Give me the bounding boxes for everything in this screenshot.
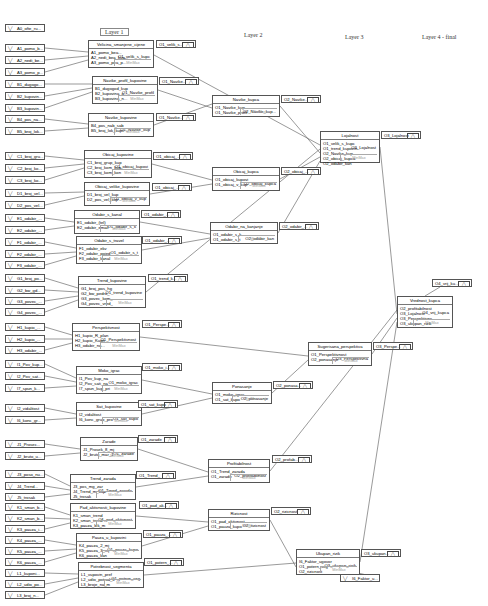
output-variable[interactable]: O1_pauza_...╱╲ [143, 530, 183, 538]
output-variable[interactable]: O1_pad_ak...╱╲ [139, 501, 179, 509]
input-variable[interactable]: ╲╱K2_sman_b... [5, 514, 45, 522]
input-variable[interactable]: ╲╱I6_konc_gr... [5, 416, 45, 424]
input-variable[interactable]: ╲╱B4_pos_na... [5, 115, 45, 123]
output-variable[interactable]: O2_Navike...╱╲ [281, 95, 321, 103]
input-variable[interactable]: ╲╱A0_ofte_ru... [5, 24, 45, 32]
rule-block[interactable]: Pad_aktivnosti_kupovineK1_sman_trendK2_s… [70, 503, 136, 529]
rule-block[interactable]: Navike_profil_kupovineB1_dugogod_kupB2_k… [92, 76, 158, 104]
input-variable[interactable]: ╲╱L1_kuponi... [5, 569, 45, 577]
input-variable[interactable]: ╲╱C1_broj_gru... [5, 152, 45, 160]
input-variable[interactable]: ╲╱G2_bw_gd... [5, 286, 45, 294]
output-variable[interactable]: O1_trend_k...╱╲ [148, 274, 188, 282]
input-variable[interactable]: ╲╱I6_Faktor_u... [340, 574, 380, 582]
output-variable[interactable]: O1_velik_s...╱╲ [156, 40, 196, 48]
rule-block[interactable]: Sat_kupovineI2_vidalitostI6_konc_grup_pr… [76, 402, 142, 426]
input-variable[interactable]: ╲╱K5_pauza_... [5, 547, 45, 555]
input-variable[interactable]: ╲╱G4_povec_... [5, 308, 45, 316]
input-variable[interactable]: ╲╱I2_Pov_sat... [5, 372, 45, 380]
rule-block[interactable]: LojalnostO1_velik_s_kupcO1_trend_kupovin… [320, 131, 380, 163]
input-variable[interactable]: ╲╱D2_pos_vel... [5, 201, 45, 209]
rule-block[interactable]: ProfitabilnostO1_Trend_zaradaO1_zaradeO2… [208, 459, 270, 483]
input-variable[interactable]: ╲╱F2_odabir_... [5, 250, 45, 258]
output-variable[interactable]: O3_Perspe...╱╲ [373, 342, 413, 350]
input-variable[interactable]: ╲╱F1_odabir_... [5, 238, 45, 246]
input-variable[interactable]: ╲╱F3_odabir_... [5, 261, 45, 269]
output-variable[interactable]: O3_Lojalnost╱╲ [381, 131, 421, 139]
output-variable[interactable]: O4_vrij_ku...╱╲ [432, 279, 472, 287]
rule-block[interactable]: Obicaj_velike_kupovineD1_broj_vel_kupD2_… [84, 182, 150, 206]
input-variable[interactable]: ╲╱B2_kupovin... [5, 92, 45, 100]
rule-block[interactable]: Odabir_s_travelF1_odabir_ekvF2_odabir_po… [76, 236, 142, 264]
input-variable[interactable]: ╲╱J4_Trend... [5, 482, 45, 490]
rule-block[interactable]: Sugerisana_perspektivaO1_PerspektivnostO… [308, 342, 372, 366]
rule-block[interactable]: ZaradeJ1_Prosek_8_mjJ2_bruto_mar_1O1_zar… [80, 437, 138, 461]
output-variable[interactable]: O2_obicaj_...╱╲ [281, 167, 321, 175]
rule-block[interactable]: PonasanjeO1_moko_igracO1_sat_kupoO2_pona… [212, 382, 272, 404]
rule-block[interactable]: PerspektivnostH1_kupio_R_planH2_kupio_Ku… [72, 323, 140, 351]
input-variable[interactable]: ╲╱J5_trosak [5, 493, 45, 501]
output-variable[interactable]: O1_zarade╱╲ [138, 435, 178, 443]
input-variable[interactable]: ╲╱G1_broj_po... [5, 274, 45, 282]
output-variable[interactable]: O1_odabir_...╱╲ [141, 210, 181, 218]
output-variable[interactable]: O1_obicaj_...╱╲ [152, 183, 192, 191]
input-variable[interactable]: ╲╱L3_broj_n... [5, 591, 45, 599]
input-variable[interactable]: ╲╱H3_odabir_... [5, 346, 45, 354]
rule-block[interactable]: Navike_kupovineB4_pos_nab_sabB5_broj_lok… [88, 113, 154, 137]
input-variable[interactable]: ╲╱H2_kupio_... [5, 335, 45, 343]
output-variable[interactable]: O2_profab...╱╲ [272, 455, 312, 463]
output-variable[interactable]: O1_obicaj_...╱╲ [153, 152, 193, 160]
output-variable[interactable]: O3_ukupan...╱╲ [361, 549, 401, 557]
input-variable[interactable]: ╲╱L2_udio_po... [5, 580, 45, 588]
output-variable[interactable]: O2_ponasa...╱╲ [273, 381, 313, 389]
input-variable[interactable]: ╲╱E2_odabir_... [5, 226, 45, 234]
rule-block[interactable]: RizicnostO1_pad_aktivnostO1_pauza_kupoO2… [208, 509, 270, 531]
rule-block[interactable]: Velicina_smanjene_cijeneA1_pomo_bea...A2… [88, 40, 154, 68]
rule-block[interactable]: Trend_zaradaJ3_pos_mg_zarJ4_Trend_m_kupJ… [70, 474, 136, 500]
input-variable[interactable]: ╲╱B5_broj_lok... [5, 127, 45, 135]
input-variable[interactable]: ╲╱E1_odabir_... [5, 214, 45, 222]
rule-block[interactable]: Ukupan_rizikI6_Faktor_ugovorO1_potern_se… [296, 549, 360, 575]
rule-block[interactable]: Moko_igracI1_Pov_kup_naI2_Pov_sati_naI7_… [76, 366, 142, 394]
input-variable[interactable]: ╲╱J3_poso_nu... [5, 470, 45, 478]
rule-block[interactable]: Pauza_u_kupoviniK4_pauza_2_mjK5_pauza_3_… [76, 533, 142, 559]
input-variable[interactable]: ╲╱A3_pomo_p... [5, 68, 45, 76]
output-variable[interactable]: O1_Perspe...╱╲ [142, 320, 182, 328]
input-variable[interactable]: ╲╱I2_vidalitost [5, 404, 45, 412]
input-variable[interactable]: ╲╱K6_pauza_... [5, 558, 45, 566]
output-variable[interactable]: O1_Trend_╱╲ [136, 471, 176, 479]
rule-block[interactable]: Obicaj_kupcaO1_obicaj_kupoviO1_obicaj_v_… [212, 167, 280, 191]
rule-block[interactable]: Obicaj_kupovineC1_broj_grup_kupC2_broj_k… [84, 150, 152, 178]
input-variable[interactable]: ╲╱H1_kupio_... [5, 323, 45, 331]
input-variable[interactable]: ╲╱K1_sman_b... [5, 503, 45, 511]
input-variable[interactable]: ╲╱A1_pomo_b... [5, 44, 45, 52]
output-variable[interactable]: O1_sat_kupo╱╲ [138, 400, 178, 408]
output-variable[interactable]: O1_odabir_...╱╲ [142, 236, 182, 244]
input-variable[interactable]: ╲╱B1_dugogo... [5, 80, 45, 88]
input-variable[interactable]: ╲╱C2_broj_ko... [5, 164, 45, 172]
input-variable[interactable]: ╲╱J1_Prosec... [5, 440, 45, 448]
input-variable[interactable]: ╲╱B3_kupovin... [5, 104, 45, 112]
input-variable[interactable]: ╲╱K4_pauza_... [5, 536, 45, 544]
output-variable[interactable]: O1_Navike...╱╲ [156, 113, 196, 121]
output-variable[interactable]: O2_rizicnost╱╲ [271, 507, 311, 515]
input-variable[interactable]: ╲╱D1_broj_vel... [5, 189, 45, 197]
rule-block[interactable]: Odabir_na_kanjanjeO1_odabir_s_k...O1_oda… [210, 222, 278, 244]
input-arrow-icon: ╲╱ [8, 215, 17, 222]
output-variable[interactable]: O1_moko_i...╱╲ [142, 363, 182, 371]
input-variable[interactable]: ╲╱A2_nedi_be... [5, 56, 45, 64]
output-variable[interactable]: O1_potern_...╱╲ [144, 558, 184, 566]
rule-block[interactable]: Odabir_s_kanalE1_odabir_(tel)E2_odabir_e… [74, 210, 140, 234]
input-variable[interactable]: ╲╱I7_spun_k... [5, 384, 45, 392]
rule-block[interactable]: Vrednost_kupcaO2_profitabilnostO3_Lojaln… [397, 296, 453, 328]
input-variable[interactable]: ╲╱G3_povec_... [5, 297, 45, 305]
output-variable[interactable]: O1_Navike...╱╲ [159, 77, 199, 85]
input-variable[interactable]: ╲╱J2_bruto_u... [5, 452, 45, 460]
rule-block[interactable]: Navike_kupcaO1_Navike_kupO1_Navike_profi… [212, 95, 280, 117]
input-variable[interactable]: ╲╱K3_pauza_i... [5, 525, 45, 533]
input-variable[interactable]: ╲╱I1_Pov_kup... [5, 360, 45, 368]
rule-block[interactable]: Trend_kupovineG1_broj_pos_hgG2_bw_pedro_… [78, 276, 146, 308]
wire [45, 168, 84, 180]
rule-block[interactable]: Potrebnost_segmentaL1_vupovin_prefL2_udi… [78, 562, 144, 588]
output-variable[interactable]: O2_odabir_...╱╲ [279, 222, 319, 230]
input-variable[interactable]: ╲╱C3_broj_ko... [5, 176, 45, 184]
